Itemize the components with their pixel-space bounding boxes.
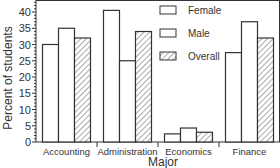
bar-female-accounting xyxy=(43,45,59,143)
legend-swatch-male xyxy=(160,29,176,37)
bar-female-finance xyxy=(226,53,242,142)
bar-overall-accounting xyxy=(75,38,91,142)
legend-label-male: Male xyxy=(188,28,210,39)
y-tick-label: 15 xyxy=(19,87,31,99)
legend-label-overall: Overall xyxy=(188,51,220,62)
bar-female-economics xyxy=(165,134,181,142)
x-axis-label: Major xyxy=(148,155,178,168)
bar-overall-administration xyxy=(136,32,152,143)
bar-overall-finance xyxy=(258,38,274,142)
bar-male-finance xyxy=(242,22,258,142)
y-tick-label: 25 xyxy=(19,55,31,67)
x-tick-label: Finance xyxy=(233,146,267,157)
y-axis-label: Percent of students xyxy=(1,26,15,129)
x-tick-label: Accounting xyxy=(43,146,90,157)
y-tick-label: 20 xyxy=(19,71,31,83)
bar-male-administration xyxy=(120,61,136,142)
legend-label-female: Female xyxy=(188,5,222,16)
bar-male-accounting xyxy=(59,28,75,142)
grouped-bar-chart: 0510152025303540AccountingAdministration… xyxy=(0,0,280,168)
y-tick-label: 35 xyxy=(19,22,31,34)
y-tick-label: 0 xyxy=(25,136,31,148)
y-tick-label: 5 xyxy=(25,120,31,132)
bar-female-administration xyxy=(104,10,120,142)
bar-male-economics xyxy=(181,128,197,142)
y-tick-label: 10 xyxy=(19,104,31,116)
y-tick-label: 30 xyxy=(19,39,31,51)
legend-swatch-overall xyxy=(160,52,176,60)
bar-overall-economics xyxy=(197,132,213,142)
y-tick-label: 40 xyxy=(19,6,31,18)
legend-swatch-female xyxy=(160,6,176,14)
